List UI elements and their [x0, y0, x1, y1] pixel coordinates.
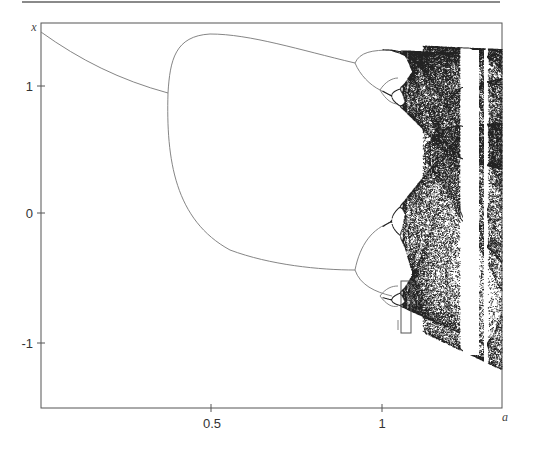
- y-axis-label: x: [30, 20, 37, 34]
- y-tick-label: -1: [21, 336, 33, 351]
- bifurcation-chart: 1 0 -1 x 0.5 1 a: [0, 0, 552, 452]
- x-tick-label: 0.5: [203, 416, 221, 431]
- x-axis-label: a: [502, 410, 508, 424]
- x-tick-label: 1: [378, 416, 385, 431]
- y-tick-label: 1: [26, 79, 33, 94]
- y-tick-label: 0: [26, 206, 33, 221]
- bifurcation-curves: [41, 32, 398, 330]
